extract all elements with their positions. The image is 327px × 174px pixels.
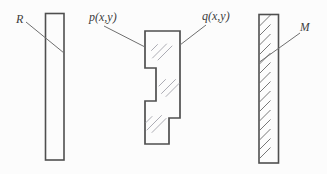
leader-line-m	[260, 33, 301, 62]
label-mirror: M	[300, 21, 310, 33]
mirror-hatch	[260, 110, 271, 121]
mirror-hatch	[260, 44, 271, 55]
optics-diagram	[0, 0, 327, 174]
mirror-hatch	[260, 15, 271, 26]
mirror-hatch	[260, 139, 271, 150]
mirror-hatch	[260, 63, 271, 74]
mirror-hatch	[260, 82, 271, 93]
mirror-hatch	[260, 25, 271, 36]
glass-hatch	[153, 44, 167, 58]
label-back-surface-q: q(x,y)	[202, 10, 230, 22]
mirror-hatch	[260, 148, 271, 159]
glass-hatch	[166, 84, 179, 97]
leader-line-q	[180, 25, 206, 45]
leader-line-p	[104, 26, 145, 47]
reference-plate-rect	[46, 14, 65, 161]
reference-plate-outline	[46, 14, 65, 161]
glass-hatch	[158, 46, 172, 60]
glass-hatch	[147, 116, 162, 131]
glass-hatch	[152, 45, 158, 51]
label-front-surface-p: p(x,y)	[89, 11, 117, 23]
figure-canvas: R p(x,y) q(x,y) M	[0, 0, 327, 174]
mirror-hatch	[260, 101, 271, 112]
glass-hatch	[159, 80, 166, 87]
mirror-hatch	[260, 72, 271, 83]
mirror-hatch	[260, 91, 271, 102]
mirror-hatch	[260, 129, 271, 140]
label-reference-plate: R	[16, 13, 23, 25]
glass-hatch-marks	[146, 44, 179, 133]
mirror-hatch	[260, 120, 271, 131]
glass-hatch	[152, 119, 166, 133]
mirror-hatch	[260, 34, 271, 45]
mirror-hatch-marks	[260, 15, 271, 159]
glass-hatch	[146, 117, 152, 123]
